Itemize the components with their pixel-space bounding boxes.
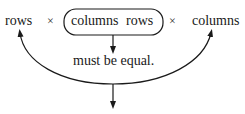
times-symbol-1: × — [47, 15, 54, 27]
left-operand-rows: rows — [5, 14, 32, 28]
times-symbol-2: × — [169, 15, 176, 27]
right-operand-columns: columns — [192, 14, 239, 28]
matrix-dimension-diagram: rows × columns rows × columns must be eq… — [0, 0, 245, 114]
inner-left-columns: columns — [71, 14, 118, 28]
inner-right-rows: rows — [126, 14, 153, 28]
must-be-equal-note: must be equal. — [73, 54, 154, 68]
